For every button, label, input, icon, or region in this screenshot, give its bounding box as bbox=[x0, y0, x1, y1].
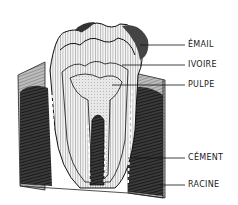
label-cement: CÉMENT bbox=[188, 153, 223, 162]
label-racine: RACINE bbox=[188, 180, 219, 189]
label-ivoire: IVOIRE bbox=[188, 60, 217, 69]
label-email: ÉMAIL bbox=[188, 40, 214, 49]
tooth-diagram bbox=[0, 0, 238, 205]
label-pulpe: PULPE bbox=[188, 80, 215, 89]
